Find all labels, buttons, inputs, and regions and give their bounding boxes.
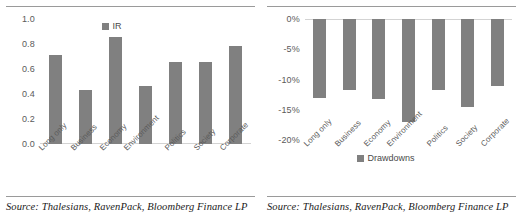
x-tick-label: Corporate xyxy=(482,142,512,151)
panel-top-rule xyxy=(267,6,516,7)
y-tick-label: 1.0 xyxy=(6,14,35,24)
y-tick-label: 0.4 xyxy=(6,89,35,99)
x-tick-label: Business xyxy=(335,142,365,151)
drawdowns-x-axis-labels: Long onlyBusinessEconomyEnvironmentPolit… xyxy=(305,140,512,196)
ir-chart: IR Long onlyBusinessEconomyEnvironmentPo… xyxy=(6,11,253,196)
bar-politics xyxy=(161,19,191,144)
x-tick-label: Politics xyxy=(423,142,453,151)
y-tick-label: -10% xyxy=(267,75,300,85)
x-tick-label: Politics xyxy=(161,146,191,155)
bar-rect xyxy=(402,19,415,122)
bar-rect xyxy=(461,19,474,107)
x-tick-label: Long only xyxy=(40,146,70,155)
source-note-right: Source: Thalesians, RavenPack, Bloomberg… xyxy=(261,197,522,212)
panel-top-rule xyxy=(6,6,255,7)
x-tick-label: Environment xyxy=(394,142,424,151)
drawdowns-chart: Drawdowns Long onlyBusinessEconomyEnviro… xyxy=(267,11,514,196)
bar-rect xyxy=(313,19,326,98)
bar-rect xyxy=(343,19,356,90)
x-tick-label: Society xyxy=(191,146,221,155)
bar-politics xyxy=(423,19,453,140)
ir-x-axis-labels: Long onlyBusinessEconomyEnvironmentPolit… xyxy=(40,144,251,196)
x-tick-label: Society xyxy=(453,142,483,151)
bar-society xyxy=(453,19,483,140)
bar-rect xyxy=(372,19,385,99)
bar-rect xyxy=(491,19,504,86)
y-tick-label: 0.0 xyxy=(6,139,35,149)
bar-society xyxy=(191,19,221,144)
y-tick-label: -20% xyxy=(267,135,300,145)
x-tick-label: Long only xyxy=(305,142,335,151)
y-tick-label: -15% xyxy=(267,105,300,115)
bar-rect xyxy=(432,19,445,90)
x-tick-label: Business xyxy=(70,146,100,155)
x-tick-label: Environment xyxy=(130,146,160,155)
drawdowns-panel: Drawdowns Long onlyBusinessEconomyEnviro… xyxy=(261,0,522,212)
figure-sheet: IR Long onlyBusinessEconomyEnvironmentPo… xyxy=(0,0,523,212)
y-tick-label: 0.8 xyxy=(6,39,35,49)
y-tick-label: -5% xyxy=(267,44,300,54)
x-tick-label: Corporate xyxy=(221,146,251,155)
ir-panel: IR Long onlyBusinessEconomyEnvironmentPo… xyxy=(0,0,261,212)
y-tick-label: 0.2 xyxy=(6,114,35,124)
y-tick-label: 0% xyxy=(267,14,300,24)
source-note-left: Source: Thalesians, RavenPack, Bloomberg… xyxy=(0,197,261,212)
y-tick-label: 0.6 xyxy=(6,64,35,74)
